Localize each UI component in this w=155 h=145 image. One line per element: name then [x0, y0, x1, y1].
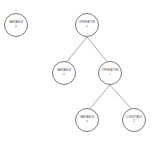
node-value-label: x [86, 120, 88, 124]
node-variable-x-left: VARIABLE x [52, 61, 76, 85]
node-variable-y: VARIABLE y [4, 13, 28, 37]
node-value-label: x [63, 73, 65, 77]
edge-operator-eq-to-operator-plus [87, 37, 107, 62]
node-value-label: = [86, 25, 88, 29]
node-value-label: + [109, 73, 111, 77]
node-variable-x-bottom: VARIABLE x [75, 108, 99, 132]
edge-operator-plus-to-constant-2 [110, 85, 131, 109]
node-value-label: y [15, 25, 17, 29]
node-constant-2: CONSTANT 2 [122, 108, 146, 132]
edge-operator-plus-to-variable-x [90, 85, 110, 109]
node-operator-equals: OPERATOR = [75, 13, 99, 37]
node-operator-plus: OPERATOR + [98, 61, 122, 85]
edge-operator-eq-to-variable-x [67, 37, 87, 62]
node-value-label: 2 [133, 120, 135, 124]
